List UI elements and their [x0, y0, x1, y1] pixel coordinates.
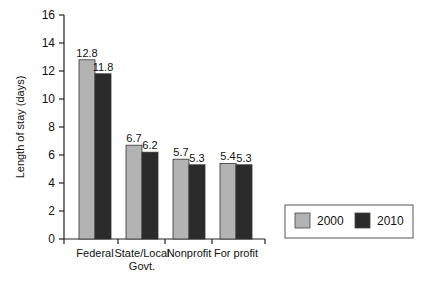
- bar-value-label: 5.3: [189, 152, 204, 164]
- x-tick-label: Federal: [76, 247, 113, 259]
- y-tick-label: 2: [48, 204, 55, 218]
- legend-swatch-2010: [355, 213, 370, 228]
- bar-value-label: 6.2: [142, 139, 157, 151]
- x-tick-label: For profit: [214, 247, 258, 259]
- bars: 12.811.86.76.25.75.35.45.3: [76, 47, 252, 239]
- y-tick-label: 14: [42, 36, 56, 50]
- bar-chart: 0246810121416 FederalState/LocalGovt.Non…: [0, 0, 424, 287]
- x-axis: FederalState/LocalGovt.NonprofitFor prof…: [64, 239, 265, 272]
- bar-value-label: 5.3: [236, 152, 251, 164]
- y-tick-label: 6: [48, 148, 55, 162]
- x-tick-label: Govt.: [129, 260, 155, 272]
- y-tick-label: 16: [42, 8, 56, 22]
- bar-2000: [173, 159, 189, 239]
- bar-2010: [142, 152, 158, 239]
- x-tick-label: State/Local: [114, 247, 169, 259]
- bar-value-label: 11.8: [93, 61, 114, 73]
- y-tick-label: 12: [42, 64, 56, 78]
- legend-label: 2010: [377, 214, 404, 228]
- bar-2000: [79, 60, 95, 239]
- bar-value-label: 5.4: [220, 150, 235, 162]
- bar-2000: [126, 145, 142, 239]
- legend-swatch-2000: [295, 213, 310, 228]
- legend: 20002010: [285, 205, 413, 238]
- bar-value-label: 12.8: [76, 47, 97, 59]
- y-tick-label: 10: [42, 92, 56, 106]
- y-tick-label: 4: [48, 176, 55, 190]
- y-tick-label: 0: [48, 232, 55, 246]
- legend-label: 2000: [317, 214, 344, 228]
- bar-2010: [236, 165, 252, 239]
- bar-value-label: 6.7: [126, 132, 141, 144]
- y-tick-label: 8: [48, 120, 55, 134]
- y-axis-label: Length of stay (days): [14, 76, 26, 179]
- bar-2000: [220, 163, 236, 239]
- bar-2010: [189, 165, 205, 239]
- y-axis: 0246810121416: [42, 8, 64, 246]
- bar-value-label: 5.7: [173, 146, 188, 158]
- x-tick-label: Nonprofit: [167, 247, 212, 259]
- bar-2010: [95, 74, 111, 239]
